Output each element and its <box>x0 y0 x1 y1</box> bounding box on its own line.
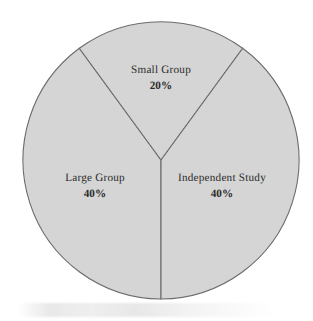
pie-label-small-group: Small Group 20% <box>131 63 191 94</box>
pie-label-small-group-name: Small Group <box>131 63 191 78</box>
pie-chart-canvas <box>0 0 313 321</box>
pie-label-small-group-value: 20% <box>131 79 191 94</box>
pie-label-large-group-name: Large Group <box>65 171 125 186</box>
pie-label-large-group-value: 40% <box>65 187 125 202</box>
pie-label-large-group: Large Group 40% <box>65 171 125 202</box>
pie-label-independent-study-value: 40% <box>178 187 266 202</box>
pie-label-independent-study-name: Independent Study <box>178 171 266 186</box>
pie-chart-figure: Small Group 20% Independent Study 40% La… <box>0 0 313 321</box>
pie-label-independent-study: Independent Study 40% <box>178 171 266 202</box>
